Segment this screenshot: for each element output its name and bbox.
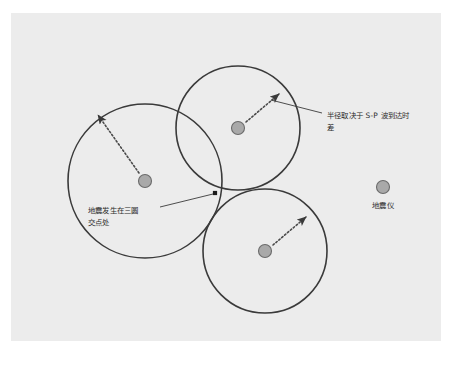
seismograph-legend-label: 地震仪 <box>372 201 394 210</box>
annotation-epicenter-line-2: 交点处 <box>88 218 110 227</box>
station-dot-top <box>232 122 245 135</box>
annotation-epicenter-line-1: 地震发生在三圆 <box>88 206 138 215</box>
epicenter-marker <box>213 191 217 195</box>
seismograph-legend-dot <box>377 181 390 194</box>
figure-panel-background <box>11 13 441 341</box>
figure-root: 半径取决于 S-P 波到达时 差 地震发生在三圆 交点处 地震仪 <box>0 0 454 365</box>
annotation-radius-line-2: 差 <box>327 123 334 132</box>
station-dot-bottom <box>259 245 272 258</box>
station-dot-left <box>139 175 152 188</box>
annotation-radius-line-1: 半径取决于 S-P 波到达时 <box>327 111 410 120</box>
earthquake-trilateration-diagram: 半径取决于 S-P 波到达时 差 地震发生在三圆 交点处 地震仪 <box>0 0 454 365</box>
